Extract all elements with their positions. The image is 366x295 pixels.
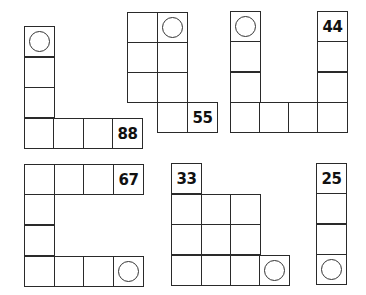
- grid-cell: [54, 164, 85, 195]
- grid-cell: [316, 224, 347, 255]
- grid-cell: [317, 102, 348, 133]
- cell-number: 44: [323, 18, 343, 36]
- circle-cell: [259, 255, 290, 286]
- grid-cell: [259, 102, 290, 133]
- grid-cell: [230, 255, 261, 286]
- numbered-cell: 67: [113, 164, 144, 195]
- grid-cell: [230, 72, 261, 103]
- circle-cell: [113, 256, 144, 287]
- cell-number: 55: [193, 109, 213, 127]
- grid-cell: [24, 225, 55, 256]
- grid-cell: [127, 42, 158, 73]
- grid-cell: [83, 256, 114, 287]
- grid-cell: [24, 57, 55, 88]
- grid-cell: [157, 72, 188, 103]
- grid-cell: [53, 118, 84, 149]
- circle-cell: [24, 26, 55, 57]
- grid-cell: [127, 72, 158, 103]
- grid-cell: [316, 193, 347, 224]
- grid-cell: [230, 41, 261, 72]
- grid-cell: [171, 224, 202, 255]
- cell-number: 25: [322, 170, 342, 188]
- grid-cell: [83, 164, 114, 195]
- grid-cell: [201, 255, 232, 286]
- numbered-cell: 55: [187, 102, 218, 133]
- grid-cell: [24, 194, 55, 225]
- grid-cell: [171, 194, 202, 225]
- grid-cell: [83, 118, 114, 149]
- grid-cell: [230, 224, 261, 255]
- circle-cell: [230, 11, 261, 42]
- cell-number: 88: [118, 125, 138, 143]
- cell-number: 67: [119, 171, 139, 189]
- numbered-cell: 33: [171, 163, 202, 194]
- circle-icon: [321, 259, 342, 280]
- grid-cell: [127, 12, 158, 43]
- grid-cell: [230, 102, 261, 133]
- grid-cell: [24, 118, 55, 149]
- numbered-cell: 88: [112, 118, 143, 149]
- numbered-cell: 44: [317, 11, 348, 42]
- circle-cell: [157, 12, 188, 43]
- grid-cell: [201, 194, 232, 225]
- circle-icon: [162, 17, 183, 38]
- numbered-cell: 25: [316, 163, 347, 194]
- grid-cell: [201, 224, 232, 255]
- grid-cell: [157, 42, 188, 73]
- grid-cell: [317, 41, 348, 72]
- grid-cell: [24, 87, 55, 118]
- grid-cell: [157, 102, 188, 133]
- circle-icon: [235, 16, 256, 37]
- circle-icon: [118, 261, 139, 282]
- grid-cell: [24, 256, 55, 287]
- grid-cell: [230, 194, 261, 225]
- grid-cell: [171, 255, 202, 286]
- circle-icon: [29, 31, 50, 52]
- circle-cell: [316, 254, 347, 285]
- cell-number: 33: [177, 170, 197, 188]
- grid-cell: [54, 256, 85, 287]
- grid-cell: [288, 102, 319, 133]
- grid-cell: [24, 164, 55, 195]
- circle-icon: [264, 260, 285, 281]
- grid-cell: [317, 72, 348, 103]
